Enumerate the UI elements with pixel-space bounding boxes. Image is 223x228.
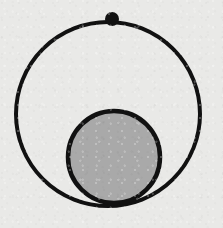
figure-container bbox=[0, 0, 223, 228]
circle-diagram-svg bbox=[0, 0, 223, 228]
marker-dot bbox=[105, 12, 119, 26]
inner-shaded-circle bbox=[68, 111, 160, 203]
